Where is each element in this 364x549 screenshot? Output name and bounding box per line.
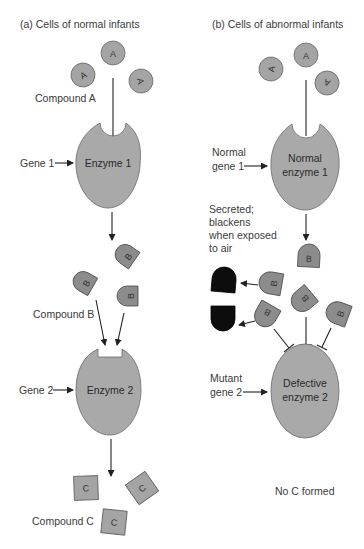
compound-b-molecule: B [69,268,97,296]
compound-b-molecule: B [117,286,138,306]
compound-a-molecule: A [312,68,343,99]
compound-c-molecule: C [125,471,158,504]
blackened-compound-b [211,266,237,293]
panel-a: (a) Cells of normal infants A A A Compou… [19,18,159,535]
panel-b: (b) Cells of abnormal infants A A A Norm… [208,18,352,497]
gene-2-label: Gene 2 [19,384,54,396]
compound-c-molecule: C [74,476,99,501]
gene-1-label: Gene 1 [20,157,55,169]
svg-text:B: B [126,293,136,299]
compound-b-arrow [96,300,105,345]
svg-text:A: A [110,49,116,59]
secreted-note-line1: Secreted; [209,203,254,215]
compound-b-arrow [117,313,124,345]
compound-b-molecule: B [111,240,140,268]
compound-b-molecule: B [250,300,281,331]
secreted-note-line2: blackens [209,216,250,228]
compound-b-molecule: B [257,270,283,296]
panel-a-title: (a) Cells of normal infants [20,18,140,30]
blackened-compound-b [211,306,235,331]
pathway-diagram: (a) Cells of normal infants A A A Compou… [0,0,364,549]
compound-a-molecule: A [101,41,125,65]
panel-b-title: (b) Cells of abnormal infants [212,18,343,30]
no-c-formed-label: No C formed [275,485,335,497]
compound-b-molecule: B [287,285,319,317]
enzyme-1-label: Enzyme 1 [85,157,132,169]
defective-enzyme-2-label-line1: Defective [283,377,327,389]
compound-b-molecule: B [323,299,352,328]
compound-c-label: Compound C [32,515,94,527]
mutant-gene-2-label-line1: Mutant [210,372,242,384]
compound-b-molecule: B [297,243,320,267]
compound-c-molecule: C [101,509,127,535]
svg-text:B: B [306,254,313,264]
compound-a-molecule: A [127,67,155,95]
svg-text:A: A [303,51,309,61]
svg-text:C: C [83,483,90,493]
blackening-arrow [239,321,255,325]
normal-gene-1-label-line1: Normal [212,146,246,158]
compound-b-label: Compound B [33,308,94,320]
normal-gene-1-label-line2: gene 1 [212,160,244,172]
normal-enzyme-1-label-line1: Normal [288,152,322,164]
secreted-note-line3: when exposed [208,229,277,241]
compound-a-molecule: A [257,55,285,83]
compound-a-molecule: A [67,59,100,92]
normal-enzyme-1-label-line2: enzyme 1 [282,166,328,178]
compound-a-molecule: A [294,43,318,67]
mutant-gene-2-label-line2: gene 2 [210,386,242,398]
diagram-stage: (a) Cells of normal infants A A A Compou… [0,0,364,549]
enzyme-2-label: Enzyme 2 [87,384,134,396]
secreted-note-line4: to air [209,242,233,254]
blackening-arrow [241,283,258,285]
defective-enzyme-2-label-line2: enzyme 2 [282,391,328,403]
compound-a-label: Compound A [35,92,96,104]
